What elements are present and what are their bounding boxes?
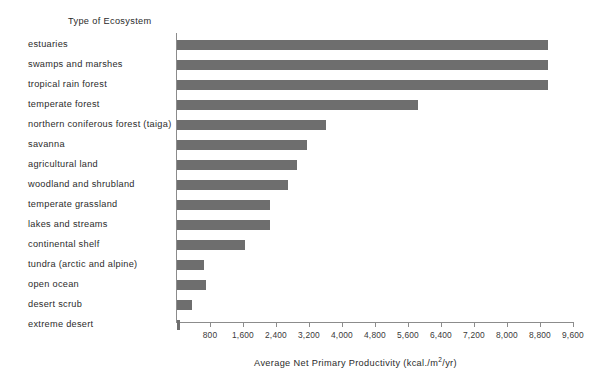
x-axis-tick (210, 322, 211, 327)
bar (177, 280, 206, 290)
x-axis-tick (474, 322, 475, 327)
bar-row: tundra (arctic and alpine) (0, 256, 605, 276)
bar (177, 80, 548, 90)
x-axis-tick (540, 322, 541, 327)
bar-row-label: tropical rain forest (28, 79, 196, 89)
x-axis-tick-label: 4,800 (364, 330, 386, 340)
bar-row-label: desert scrub (28, 299, 196, 309)
x-axis-tick-label: 8,800 (529, 330, 551, 340)
bar-row: agricultural land (0, 156, 605, 176)
bar (177, 160, 297, 170)
bar-row-label: tundra (arctic and alpine) (28, 259, 196, 269)
bar (177, 180, 288, 190)
bar-row: temperate forest (0, 96, 605, 116)
bar-row-label: agricultural land (28, 159, 196, 169)
bar (177, 140, 307, 150)
bar (177, 60, 548, 70)
bar-row: swamps and marshes (0, 56, 605, 76)
bar-row: estuaries (0, 36, 605, 56)
bar (177, 320, 180, 330)
bar-row: lakes and streams (0, 216, 605, 236)
bar-row-label: woodland and shrubland (28, 179, 196, 189)
x-axis-tick-label: 3,200 (298, 330, 320, 340)
x-axis-tick-label: 7,200 (463, 330, 485, 340)
x-axis-title-superscript: 2 (438, 356, 442, 363)
bar-row: tropical rain forest (0, 76, 605, 96)
bar-row-label: savanna (28, 139, 196, 149)
plot-area: estuariesswamps and marshestropical rain… (0, 0, 605, 379)
bar (177, 120, 326, 130)
bar-row: savanna (0, 136, 605, 156)
bar-row: woodland and shrubland (0, 176, 605, 196)
x-axis-tick (342, 322, 343, 327)
bar-row-label: temperate forest (28, 99, 196, 109)
bar-row: open ocean (0, 276, 605, 296)
bar-row-label: temperate grassland (28, 199, 196, 209)
bar-row-label: extreme desert (28, 319, 196, 329)
x-axis-tick (276, 322, 277, 327)
x-axis-tick (507, 322, 508, 327)
bar-row-label: estuaries (28, 39, 196, 49)
x-axis-tick-label: 4,000 (331, 330, 353, 340)
x-axis-tick-label: 9,600 (562, 330, 584, 340)
bar-row-label: open ocean (28, 279, 196, 289)
bar-row: temperate grassland (0, 196, 605, 216)
x-axis-tick-label: 1,600 (232, 330, 254, 340)
x-axis-tick (441, 322, 442, 327)
x-axis-tick (243, 322, 244, 327)
bar (177, 40, 548, 50)
bar-row-label: swamps and marshes (28, 59, 196, 69)
bar-row: northern coniferous forest (taiga) (0, 116, 605, 136)
bar (177, 260, 204, 270)
x-axis-tick-label: 5,600 (397, 330, 419, 340)
x-axis-tick-label: 8,000 (496, 330, 518, 340)
bar (177, 100, 418, 110)
x-axis-tick (408, 322, 409, 327)
x-axis-tick (573, 322, 574, 327)
x-axis-tick-label: 6,400 (430, 330, 452, 340)
bar (177, 220, 270, 230)
x-axis-tick (309, 322, 310, 327)
ecosystem-productivity-chart: Type of Ecosystem estuariesswamps and ma… (0, 0, 605, 379)
x-axis-tick-label: 2,400 (265, 330, 287, 340)
x-axis-title-text: Average Net Primary Productivity (kcal./… (254, 356, 457, 368)
x-axis-title: Average Net Primary Productivity (kcal./… (0, 356, 605, 368)
x-axis-tick-label: 800 (203, 330, 218, 340)
bar-row: continental shelf (0, 236, 605, 256)
bar-row-label: northern coniferous forest (taiga) (28, 119, 196, 129)
bar-row-label: continental shelf (28, 239, 196, 249)
bar-row: desert scrub (0, 296, 605, 316)
bar (177, 300, 192, 310)
x-axis-tick (375, 322, 376, 327)
bar (177, 240, 245, 250)
bar (177, 200, 270, 210)
bar-row-label: lakes and streams (28, 219, 196, 229)
